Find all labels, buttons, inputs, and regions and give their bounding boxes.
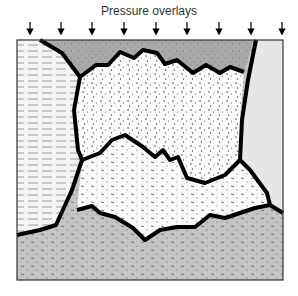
pressure-diagram — [0, 0, 298, 296]
pressure-arrows — [30, 22, 282, 32]
